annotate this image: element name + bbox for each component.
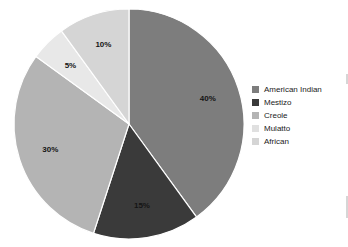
- pie-slice-value-label: 15%: [134, 201, 150, 210]
- legend-item[interactable]: Mulatto: [252, 122, 348, 135]
- legend-item[interactable]: African: [252, 135, 348, 148]
- pie-slice-value-label: 5%: [65, 61, 77, 70]
- pie-slice-value-label: 10%: [95, 40, 111, 49]
- legend-item-label: Mulatto: [264, 124, 290, 133]
- legend-swatch-icon: [252, 86, 259, 93]
- legend-item-label: African: [264, 137, 289, 146]
- pie-slice-value-label: 30%: [42, 145, 58, 154]
- legend-item[interactable]: Creole: [252, 109, 348, 122]
- legend-swatch-icon: [252, 99, 259, 106]
- pie-slice-value-label: 40%: [200, 94, 216, 103]
- legend-item-label: Creole: [264, 111, 288, 120]
- pie-chart-figure: 40%15%30%5%10% American IndianMestizoCre…: [0, 0, 348, 247]
- pie-slices-group: [14, 9, 244, 239]
- legend-item[interactable]: American Indian: [252, 83, 348, 96]
- legend-swatch-icon: [252, 112, 259, 119]
- legend-swatch-icon: [252, 125, 259, 132]
- legend-item-label: Mestizo: [264, 98, 292, 107]
- legend-item-label: American Indian: [264, 85, 322, 94]
- legend-swatch-icon: [252, 138, 259, 145]
- chart-legend: American IndianMestizoCreoleMulattoAfric…: [252, 83, 348, 148]
- legend-item[interactable]: Mestizo: [252, 96, 348, 109]
